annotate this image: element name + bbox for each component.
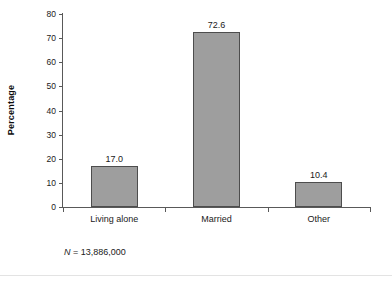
y-axis-tick-label: 20 bbox=[47, 155, 56, 164]
y-axis-tick-mark bbox=[59, 38, 63, 39]
bar-value-label: 10.4 bbox=[310, 171, 328, 180]
y-axis-tick-label: 80 bbox=[47, 10, 56, 19]
y-axis-tick-mark bbox=[59, 14, 63, 15]
y-axis-tick-mark bbox=[59, 86, 63, 87]
y-axis-tick-label: 60 bbox=[47, 58, 56, 67]
y-axis-tick-mark bbox=[59, 135, 63, 136]
bar: 72.6 bbox=[193, 32, 240, 207]
bottom-divider bbox=[0, 275, 392, 276]
y-axis-tick-label: 50 bbox=[47, 82, 56, 91]
x-axis-line bbox=[62, 207, 370, 208]
bar-chart-figure: Percentage 0102030405060708017.072.610.4… bbox=[0, 0, 392, 282]
x-axis-category-label: Living alone bbox=[90, 215, 138, 224]
bar: 17.0 bbox=[91, 166, 138, 207]
y-axis-tick-label: 40 bbox=[47, 106, 56, 115]
x-axis-tick-mark bbox=[370, 207, 371, 212]
bar-value-label: 17.0 bbox=[105, 155, 123, 164]
y-axis-tick-mark bbox=[59, 159, 63, 160]
y-axis-tick-label: 70 bbox=[47, 34, 56, 43]
x-axis-tick-mark bbox=[63, 207, 64, 212]
bar-value-label: 72.6 bbox=[208, 21, 226, 30]
sample-size-note: N = 13,886,000 bbox=[64, 248, 126, 257]
x-axis-tick-mark bbox=[268, 207, 269, 212]
y-axis-tick-label: 30 bbox=[47, 130, 56, 139]
sample-size-value: = 13,886,000 bbox=[71, 247, 126, 257]
x-axis-category-label: Other bbox=[308, 215, 331, 224]
y-axis-title: Percentage bbox=[6, 85, 16, 136]
x-axis-tick-mark bbox=[165, 207, 166, 212]
y-axis-tick-label: 0 bbox=[51, 203, 56, 212]
x-axis-category-label: Married bbox=[201, 215, 232, 224]
plot-area: 0102030405060708017.072.610.4 bbox=[63, 14, 370, 207]
y-axis-tick-mark bbox=[59, 62, 63, 63]
bar: 10.4 bbox=[295, 182, 342, 207]
y-axis-tick-label: 10 bbox=[47, 179, 56, 188]
y-axis-tick-mark bbox=[59, 183, 63, 184]
y-axis-tick-mark bbox=[59, 111, 63, 112]
